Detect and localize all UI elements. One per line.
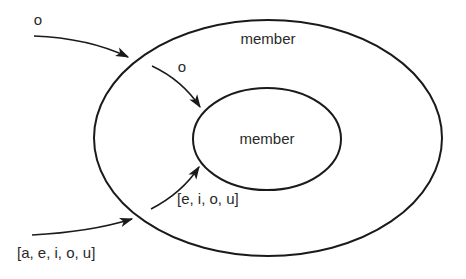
arrow-o-to-outer [34,36,128,57]
arrow-o-to-inner [152,66,200,107]
outer-set-label: member [240,30,295,47]
arrow-o-to-outer-label: o [34,11,42,28]
arrow-eiou-to-inner-label: [e, i, o, u] [177,190,239,207]
nested-member-diagram: member member o o [a, e, i, o, u] [e, i,… [0,0,466,279]
arrow-aeiou-to-outer [32,219,132,235]
arrow-o-to-inner-label: o [178,58,186,75]
arrow-aeiou-to-outer-label: [a, e, i, o, u] [17,244,95,261]
inner-set-label: member [239,130,294,147]
